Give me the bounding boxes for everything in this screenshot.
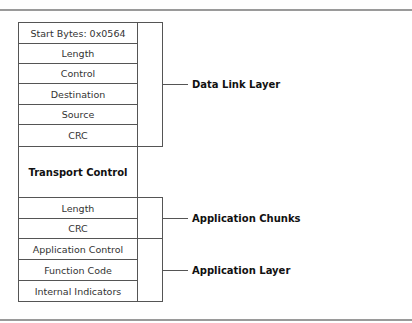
label-application-chunks: Application Chunks [192, 213, 301, 224]
bracket-data-link-layer [137, 22, 163, 147]
field-control: Control [18, 63, 138, 84]
top-rule [0, 9, 412, 11]
field-application-control: Application Control [18, 238, 138, 260]
bracket-application-layer [137, 238, 163, 302]
bracket-application-chunks [137, 197, 163, 239]
field-chunk-crc: CRC [18, 218, 138, 239]
connector-data-link-layer [163, 84, 188, 85]
field-source: Source [18, 104, 138, 125]
field-length: Length [18, 43, 138, 64]
label-data-link-layer: Data Link Layer [192, 79, 280, 90]
field-function-code: Function Code [18, 259, 138, 281]
field-internal-indicators: Internal Indicators [18, 280, 138, 302]
connector-application-layer [163, 270, 188, 271]
label-application-layer: Application Layer [192, 265, 290, 276]
field-chunk-length: Length [18, 197, 138, 219]
bottom-rule [0, 319, 412, 321]
field-crc: CRC [18, 124, 138, 147]
field-destination: Destination [18, 83, 138, 105]
field-start-bytes: Start Bytes: 0x0564 [18, 22, 138, 44]
field-transport-control: Transport Control [18, 146, 138, 198]
connector-application-chunks [163, 218, 188, 219]
